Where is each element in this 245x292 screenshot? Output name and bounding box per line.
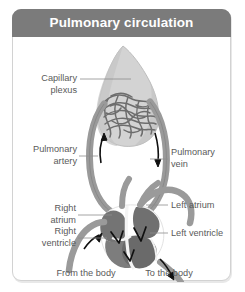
label-capillary-plexus: Capillary plexus (14, 73, 77, 96)
page-title: Pulmonary circulation (50, 16, 194, 30)
label-from-the-body: From the body (48, 268, 124, 280)
label-pulmonary-artery: Pulmonary artery (12, 144, 77, 167)
card-header: Pulmonary circulation (12, 9, 231, 37)
label-right-atrium: Right atrium (18, 203, 76, 226)
label-left-ventricle: Left ventricle (171, 228, 237, 240)
label-left-atrium: Left atrium (171, 200, 233, 212)
pulmonary-artery-arrow (100, 133, 107, 163)
vena-cava-arrow (84, 233, 102, 249)
pulmonary-vein-arrow (155, 133, 161, 167)
screenshot-root: Pulmonary circulation (0, 0, 245, 292)
label-to-the-body: To the body (136, 268, 202, 280)
label-pulmonary-vein: Pulmonary vein (171, 147, 233, 170)
label-right-ventricle: Right ventricle (14, 226, 76, 249)
